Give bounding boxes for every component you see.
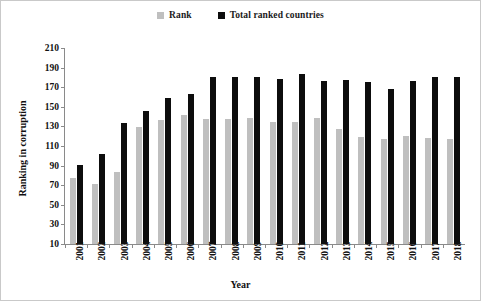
x-axis-tick-label-cell: 2005 (153, 249, 175, 279)
bar-total-ranked-countries (321, 81, 327, 244)
legend-label-total-ranked-countries: Total ranked countries (230, 10, 324, 20)
legend-item-total-ranked-countries: Total ranked countries (218, 10, 324, 20)
bar-rank (92, 184, 98, 244)
bar-total-ranked-countries (277, 79, 283, 244)
bar-total-ranked-countries (188, 94, 194, 244)
x-axis-tick-mark (309, 244, 310, 248)
x-axis-tick-mark (376, 244, 377, 248)
bar-group (198, 48, 220, 244)
bar-group (421, 48, 443, 244)
x-axis-tick-label-cell: 2013 (331, 249, 353, 279)
y-axis-title-text: Ranking in corruption (17, 100, 28, 196)
x-axis-tick-label-cell: 2007 (197, 249, 219, 279)
bar-rank (181, 115, 187, 244)
x-axis-tick-mark (198, 244, 199, 248)
bar-rank (247, 118, 253, 244)
bar-total-ranked-countries (343, 80, 349, 244)
x-axis-tick-label-cell: 2003 (108, 249, 130, 279)
x-axis-tick-mark (421, 244, 422, 248)
bar-group (265, 48, 287, 244)
bar-group (398, 48, 420, 244)
x-axis-tick-label-cell: 2009 (242, 249, 264, 279)
x-axis-tick-label: 2010 (275, 242, 285, 261)
bar-total-ranked-countries (254, 77, 260, 244)
x-axis-tick-mark (176, 244, 177, 248)
bar-rank (70, 178, 76, 244)
bar-rank (447, 139, 453, 244)
x-axis-tick-mark (287, 244, 288, 248)
x-axis-tick-mark (243, 244, 244, 248)
x-axis-tick-label: 2009 (253, 242, 263, 261)
bar-group (109, 48, 131, 244)
x-axis-tick-mark (221, 244, 222, 248)
x-axis-tick-label-cell: 2016 (397, 249, 419, 279)
x-axis-tick-label: 2011 (297, 242, 307, 260)
x-axis-tick-label-cell: 2018 (442, 249, 464, 279)
x-axis-tick-label: 2002 (97, 242, 107, 261)
bar-total-ranked-countries (432, 77, 438, 244)
bar-total-ranked-countries (121, 123, 127, 244)
x-axis-tick-mark (154, 244, 155, 248)
chart-figure: Rank Total ranked countries Ranking in c… (0, 0, 481, 301)
x-axis-tick-label: 2013 (342, 242, 352, 261)
bar-groups (65, 48, 465, 244)
bar-total-ranked-countries (410, 81, 416, 244)
x-axis-tick-label-cell: 2017 (420, 249, 442, 279)
x-axis-tick-label-cell: 2010 (264, 249, 286, 279)
bar-group (376, 48, 398, 244)
bar-rank (403, 136, 409, 244)
x-axis-tick-label: 2007 (208, 242, 218, 261)
x-axis-tick-label-cell: 2004 (131, 249, 153, 279)
bar-rank (203, 119, 209, 244)
bar-total-ranked-countries (454, 77, 460, 244)
bar-group (287, 48, 309, 244)
x-axis-tick-label: 2018 (453, 242, 463, 261)
legend-swatch-rank (157, 12, 164, 19)
bar-group (132, 48, 154, 244)
bar-group (65, 48, 87, 244)
legend-swatch-total-ranked-countries (218, 12, 225, 19)
x-axis-tick-label: 2005 (164, 242, 174, 261)
bar-rank (136, 127, 142, 244)
bar-total-ranked-countries (210, 77, 216, 244)
bar-total-ranked-countries (165, 98, 171, 244)
x-axis-tick-mark (109, 244, 110, 248)
x-axis-title: Year (1, 279, 480, 290)
x-axis-tick-label-cell: 2002 (86, 249, 108, 279)
bar-rank (114, 172, 120, 244)
x-axis-tick-label: 2004 (142, 242, 152, 261)
bar-total-ranked-countries (299, 74, 305, 244)
x-axis-tick-label-cell: 2001 (64, 249, 86, 279)
bar-total-ranked-countries (77, 165, 83, 244)
x-axis-tick-label: 2017 (431, 242, 441, 261)
bar-rank (270, 122, 276, 244)
x-axis-tick-label-cell: 2008 (220, 249, 242, 279)
bar-total-ranked-countries (99, 154, 105, 244)
x-axis-tick-mark (265, 244, 266, 248)
bar-total-ranked-countries (143, 111, 149, 244)
x-axis-tick-mark (87, 244, 88, 248)
bar-group (309, 48, 331, 244)
bar-rank (381, 139, 387, 244)
x-axis-tick-label: 2015 (386, 242, 396, 261)
x-axis-tick-label: 2006 (186, 242, 196, 261)
legend-label-rank: Rank (169, 10, 192, 20)
x-axis-tick-mark (332, 244, 333, 248)
x-axis-tick-mark (65, 244, 66, 248)
bar-total-ranked-countries (365, 82, 371, 244)
bar-rank (425, 138, 431, 244)
x-axis-tick-label-cell: 2011 (286, 249, 308, 279)
bar-group (443, 48, 465, 244)
x-axis-tick-label: 2016 (408, 242, 418, 261)
bar-group (87, 48, 109, 244)
x-axis-tick-label-cell: 2015 (375, 249, 397, 279)
x-axis-tick-label: 2012 (320, 242, 330, 261)
x-axis-tick-labels: 2001200220032004200520062007200820092010… (64, 249, 464, 279)
bar-rank (158, 120, 164, 244)
bar-rank (292, 122, 298, 244)
x-axis-tick-mark (398, 244, 399, 248)
chart-legend: Rank Total ranked countries (1, 8, 480, 22)
x-axis-tick-label: 2001 (75, 242, 85, 261)
x-axis-tick-label: 2003 (120, 242, 130, 261)
bar-group (176, 48, 198, 244)
